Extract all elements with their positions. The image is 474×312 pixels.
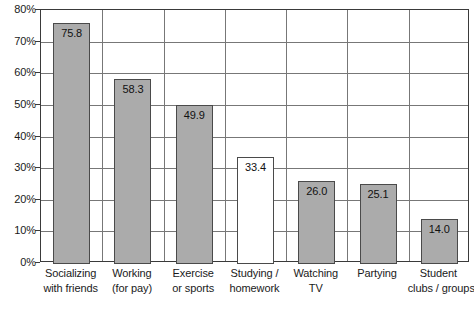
y-axis-tick-mark	[35, 262, 40, 263]
x-axis-category-line: Exercise	[163, 266, 224, 281]
vertical-gridline	[225, 10, 226, 261]
x-axis-category-line: Socializing	[40, 266, 101, 281]
bar-value-label: 33.4	[238, 161, 273, 173]
x-axis-category-label: Studentclubs / groups	[408, 266, 469, 295]
vertical-gridline	[102, 10, 103, 261]
x-axis-category-line: (for pay)	[101, 281, 162, 296]
x-axis-category-label: Socializingwith friends	[40, 266, 101, 295]
x-axis-category-line: homework	[224, 281, 285, 296]
bar: 58.3	[114, 79, 151, 264]
horizontal-gridline	[41, 105, 468, 106]
y-axis-tick-label: 70%	[2, 35, 36, 46]
bar: 49.9	[176, 105, 213, 264]
x-axis-category-line: or sports	[163, 281, 224, 296]
x-axis-category-label: Studying /homework	[224, 266, 285, 295]
y-axis: 0%10%20%30%40%50%60%70%80%	[0, 0, 36, 312]
y-axis-tick-mark	[35, 41, 40, 42]
horizontal-gridline	[41, 42, 468, 43]
y-axis-tick-label: 80%	[2, 4, 36, 15]
y-axis-tick-mark	[35, 199, 40, 200]
horizontal-gridline	[41, 73, 468, 74]
bar: 26.0	[298, 181, 335, 264]
bar-value-label: 75.8	[54, 27, 89, 39]
bar-value-label: 49.9	[177, 109, 212, 121]
x-axis-category-line: Partying	[346, 266, 407, 281]
y-axis-tick-mark	[35, 9, 40, 10]
y-axis-tick-mark	[35, 104, 40, 105]
y-axis-tick-label: 0%	[2, 257, 36, 268]
x-axis: Socializingwith friendsWorking(for pay)E…	[40, 266, 469, 310]
bar-value-label: 26.0	[299, 185, 334, 197]
bar-chart: 0%10%20%30%40%50%60%70%80% 75.858.349.93…	[0, 0, 474, 312]
x-axis-category-line: Watching	[285, 266, 346, 281]
bar: 75.8	[53, 23, 90, 264]
x-axis-category-label: Working(for pay)	[101, 266, 162, 295]
x-axis-category-label: Partying	[346, 266, 407, 281]
y-axis-tick-mark	[35, 72, 40, 73]
x-axis-category-line: Working	[101, 266, 162, 281]
vertical-gridline	[409, 10, 410, 261]
x-axis-category-line: TV	[285, 281, 346, 296]
bar-value-label: 25.1	[361, 188, 396, 200]
horizontal-gridline	[41, 137, 468, 138]
y-axis-tick-label: 20%	[2, 193, 36, 204]
vertical-gridline	[286, 10, 287, 261]
y-axis-tick-label: 60%	[2, 67, 36, 78]
y-axis-tick-label: 50%	[2, 98, 36, 109]
bar: 14.0	[421, 219, 458, 264]
x-axis-category-label: WatchingTV	[285, 266, 346, 295]
y-axis-tick-mark	[35, 230, 40, 231]
y-axis-tick-mark	[35, 136, 40, 137]
x-axis-category-line: clubs / groups	[408, 281, 469, 296]
bar-value-label: 14.0	[422, 223, 457, 235]
y-axis-tick-label: 30%	[2, 162, 36, 173]
y-axis-tick-label: 10%	[2, 225, 36, 236]
bar-value-label: 58.3	[115, 83, 150, 95]
y-axis-tick-label: 40%	[2, 130, 36, 141]
bar: 33.4	[237, 157, 274, 264]
x-axis-category-line: Studying /	[224, 266, 285, 281]
y-axis-tick-mark	[35, 167, 40, 168]
x-axis-category-line: with friends	[40, 281, 101, 296]
x-axis-category-line: Student	[408, 266, 469, 281]
bar: 25.1	[360, 184, 397, 264]
x-axis-category-label: Exerciseor sports	[163, 266, 224, 295]
vertical-gridline	[164, 10, 165, 261]
vertical-gridline	[347, 10, 348, 261]
plot-area: 75.858.349.933.426.025.114.0	[40, 9, 469, 262]
